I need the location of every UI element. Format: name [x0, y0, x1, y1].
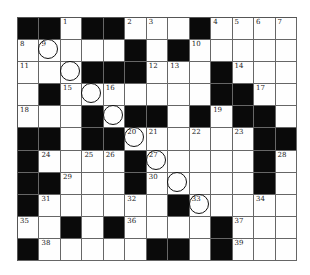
grid-cell[interactable]: 6	[254, 18, 275, 40]
grid-cell[interactable]	[125, 84, 146, 106]
grid-cell[interactable]	[61, 151, 82, 173]
grid-cell[interactable]: 30	[147, 173, 168, 195]
grid-cell[interactable]: 23	[233, 128, 254, 150]
grid-cell[interactable]	[190, 84, 211, 106]
grid-cell[interactable]	[104, 173, 125, 195]
grid-cell[interactable]	[147, 84, 168, 106]
grid-cell[interactable]	[211, 173, 232, 195]
grid-cell[interactable]: 31	[39, 195, 60, 217]
grid-cell[interactable]	[190, 62, 211, 84]
grid-cell[interactable]	[211, 151, 232, 173]
grid-cell[interactable]	[18, 84, 39, 106]
grid-cell[interactable]: 21	[147, 128, 168, 150]
grid-cell[interactable]	[82, 239, 103, 261]
grid-cell[interactable]	[254, 62, 275, 84]
grid-cell[interactable]	[190, 173, 211, 195]
grid-cell[interactable]: 18	[18, 106, 39, 128]
grid-cell[interactable]	[147, 217, 168, 239]
grid-cell[interactable]	[211, 40, 232, 62]
grid-cell[interactable]	[276, 40, 297, 62]
grid-cell[interactable]: 39	[233, 239, 254, 261]
grid-cell[interactable]: 11	[18, 62, 39, 84]
grid-cell[interactable]	[104, 239, 125, 261]
grid-cell[interactable]: 16	[104, 84, 125, 106]
grid-cell[interactable]	[168, 217, 189, 239]
grid-cell[interactable]	[211, 195, 232, 217]
grid-cell[interactable]: 28	[276, 151, 297, 173]
grid-cell[interactable]: 17	[254, 84, 275, 106]
grid-cell[interactable]	[211, 128, 232, 150]
grid-cell[interactable]: 26	[104, 151, 125, 173]
grid-cell[interactable]	[276, 239, 297, 261]
grid-cell[interactable]: 3	[147, 18, 168, 40]
grid-cell[interactable]: 2	[125, 18, 146, 40]
grid-cell[interactable]	[276, 106, 297, 128]
grid-cell[interactable]	[190, 217, 211, 239]
grid-cell[interactable]	[147, 195, 168, 217]
grid-cell[interactable]: 29	[61, 173, 82, 195]
grid-cell[interactable]	[125, 239, 146, 261]
grid-cell[interactable]	[276, 84, 297, 106]
grid-cell[interactable]	[254, 40, 275, 62]
grid-cell[interactable]	[147, 40, 168, 62]
grid-cell[interactable]	[82, 217, 103, 239]
grid-cell[interactable]: 35	[18, 217, 39, 239]
grid-cell[interactable]: 10	[190, 40, 211, 62]
grid-cell[interactable]: 25	[82, 151, 103, 173]
grid-cell[interactable]	[168, 151, 189, 173]
grid-cell[interactable]	[168, 18, 189, 40]
grid-cell[interactable]	[190, 151, 211, 173]
grid-cell[interactable]	[61, 195, 82, 217]
grid-cell[interactable]	[276, 173, 297, 195]
grid-cell[interactable]: 27	[147, 151, 168, 173]
grid-cell[interactable]	[233, 195, 254, 217]
grid-cell[interactable]	[190, 239, 211, 261]
grid-cell[interactable]: 12	[147, 62, 168, 84]
grid-cell[interactable]: 37	[233, 217, 254, 239]
grid-cell[interactable]: 33	[190, 195, 211, 217]
grid-cell[interactable]	[104, 40, 125, 62]
grid-cell[interactable]: 7	[276, 18, 297, 40]
grid-cell[interactable]	[104, 106, 125, 128]
grid-cell[interactable]	[82, 173, 103, 195]
grid-cell[interactable]	[82, 84, 103, 106]
grid-cell[interactable]: 36	[125, 217, 146, 239]
grid-cell[interactable]	[254, 217, 275, 239]
grid-cell[interactable]	[39, 106, 60, 128]
grid-cell[interactable]: 34	[254, 195, 275, 217]
grid-cell[interactable]	[61, 40, 82, 62]
grid-cell[interactable]: 13	[168, 62, 189, 84]
grid-cell[interactable]: 4	[211, 18, 232, 40]
grid-cell[interactable]	[39, 62, 60, 84]
grid-cell[interactable]: 8	[18, 40, 39, 62]
grid-cell[interactable]	[168, 128, 189, 150]
grid-cell[interactable]	[61, 239, 82, 261]
grid-cell[interactable]: 9	[39, 40, 60, 62]
grid-cell[interactable]	[276, 62, 297, 84]
grid-cell[interactable]	[233, 173, 254, 195]
grid-cell[interactable]	[168, 173, 189, 195]
grid-cell[interactable]	[39, 217, 60, 239]
grid-cell[interactable]	[61, 106, 82, 128]
grid-cell[interactable]: 32	[125, 195, 146, 217]
grid-cell[interactable]	[233, 151, 254, 173]
grid-cell[interactable]	[82, 40, 103, 62]
grid-cell[interactable]	[233, 40, 254, 62]
grid-cell[interactable]: 15	[61, 84, 82, 106]
grid-cell[interactable]	[82, 195, 103, 217]
grid-cell[interactable]	[61, 128, 82, 150]
grid-cell[interactable]: 20	[125, 128, 146, 150]
grid-cell[interactable]: 14	[233, 62, 254, 84]
grid-cell[interactable]	[168, 106, 189, 128]
grid-cell[interactable]	[276, 217, 297, 239]
grid-cell[interactable]: 19	[211, 106, 232, 128]
grid-cell[interactable]	[276, 195, 297, 217]
grid-cell[interactable]	[104, 195, 125, 217]
grid-cell[interactable]: 1	[61, 18, 82, 40]
grid-cell[interactable]	[168, 84, 189, 106]
grid-cell[interactable]: 38	[39, 239, 60, 261]
grid-cell[interactable]: 24	[39, 151, 60, 173]
grid-cell[interactable]: 22	[190, 128, 211, 150]
grid-cell[interactable]	[61, 62, 82, 84]
grid-cell[interactable]	[254, 239, 275, 261]
